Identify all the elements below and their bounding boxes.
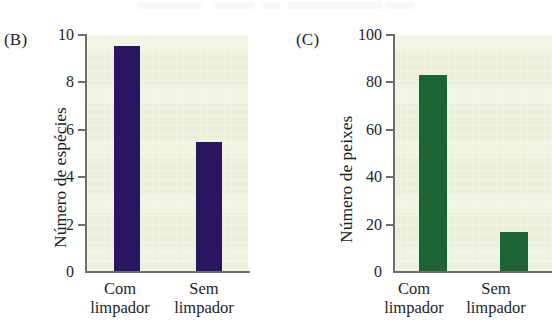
panel-c-y-axis-line xyxy=(393,34,395,273)
panel-c-xtick-label-sem-line2: limpador xyxy=(448,298,544,317)
panel-b-xtick-label-com-line1: Com xyxy=(72,279,168,298)
panel-c-ytick-100 xyxy=(386,34,393,36)
panel-b-xtick-label-sem-line2: limpador xyxy=(156,298,252,317)
panel-c-ytick-label-80: 80 xyxy=(338,74,382,90)
panel-b-ytick-4 xyxy=(78,176,85,178)
panel-b-bar-com-limpador xyxy=(114,46,140,272)
panel-b-plot-background xyxy=(87,35,248,272)
panel-c-ytick-40 xyxy=(386,176,393,178)
panel-b-ytick-8 xyxy=(78,81,85,83)
panel-c-ytick-label-100: 100 xyxy=(338,27,382,43)
panel-b-ytick-label-10: 10 xyxy=(40,27,74,43)
panel-c-ytick-label-60: 60 xyxy=(338,122,382,138)
panel-c-ytick-label-20: 20 xyxy=(338,217,382,233)
panel-b-ytick-10 xyxy=(78,34,85,36)
panel-b-ytick-label-0: 0 xyxy=(40,264,74,280)
panel-c-letter: (C) xyxy=(296,30,319,50)
panel-b: (B) Número de espécies 10 8 6 4 2 0 Com … xyxy=(0,0,276,335)
panel-c-xtick-label-sem-limpador: Sem limpador xyxy=(448,279,544,318)
panel-b-ytick-label-4: 4 xyxy=(40,169,74,185)
panel-b-ytick-label-6: 6 xyxy=(40,122,74,138)
panel-b-x-axis-line xyxy=(85,271,250,273)
panel-c-ytick-label-40: 40 xyxy=(338,169,382,185)
panel-b-letter: (B) xyxy=(4,30,27,50)
panel-c-ytick-80 xyxy=(386,81,393,83)
panel-b-ytick-label-2: 2 xyxy=(40,217,74,233)
panel-b-xtick-label-com-line2: limpador xyxy=(72,298,168,317)
panel-b-plot-area xyxy=(87,35,248,272)
panel-b-xtick-label-sem-line1: Sem xyxy=(156,279,252,298)
panel-c-plot-area xyxy=(395,35,552,272)
panel-b-xtick-label-com-limpador: Com limpador xyxy=(72,279,168,318)
panel-b-y-axis-line xyxy=(85,34,87,273)
panel-b-bar-sem-limpador xyxy=(196,142,222,272)
panel-c-xtick-label-sem-line1: Sem xyxy=(448,279,544,298)
panel-c-ytick-60 xyxy=(386,129,393,131)
panel-c-bar-sem-limpador xyxy=(500,232,528,272)
panel-c-bar-com-limpador xyxy=(419,75,447,272)
panel-b-ytick-6 xyxy=(78,129,85,131)
panel-b-xtick-label-sem-limpador: Sem limpador xyxy=(156,279,252,318)
panel-b-ytick-label-8: 8 xyxy=(40,74,74,90)
panel-c-x-axis-line xyxy=(393,271,552,273)
panel-c-ytick-label-0: 0 xyxy=(338,264,382,280)
figure-root: { "figure": { "background_color": "#ffff… xyxy=(0,0,552,335)
panel-b-ytick-2 xyxy=(78,224,85,226)
panel-c: (C) Número de peixes 100 80 60 40 20 0 C… xyxy=(276,0,552,335)
panel-c-ytick-20 xyxy=(386,224,393,226)
